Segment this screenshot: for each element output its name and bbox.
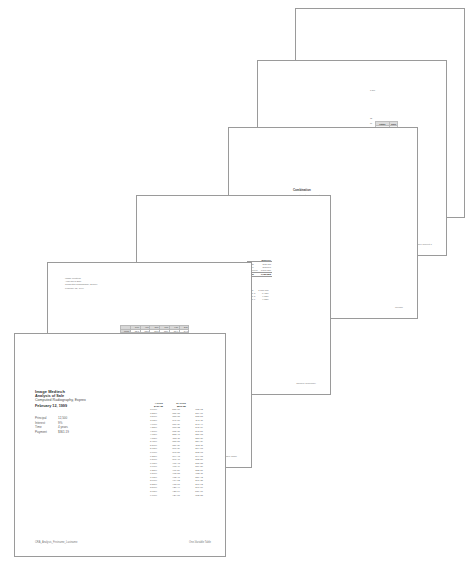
front-parameter-row: Payment$361.19 xyxy=(35,430,80,435)
answer-report-objective-value: 3,109 xyxy=(370,89,375,92)
front-table-rate: 9.00% xyxy=(140,494,157,498)
combination-sheet-tab: Combo xyxy=(395,306,403,309)
front-footer-left: CRA_Analysis_Firstname_Lastname xyxy=(35,541,77,544)
summary-row-value: 1,986,285 xyxy=(259,272,272,276)
front-table-row: 9.00%424.07302.88 xyxy=(140,494,203,498)
front-header-block: Image Medtech Analysis of Sale Computed … xyxy=(35,389,86,408)
front-product: Computed Radiography, Exprex xyxy=(35,398,86,402)
summary-extra-value: 1,000,000 xyxy=(257,288,270,291)
two-variable-header: Image Medtech Analysis of Sale Computed … xyxy=(65,277,98,290)
front-amortization-table: 4 years10 years $461.35$279.80 3.00%587.… xyxy=(140,402,203,497)
combination-title: Combination xyxy=(293,188,325,192)
front-parameter-value: $361.19 xyxy=(58,430,80,435)
front-date: February 12, 1999 xyxy=(35,404,86,408)
front-table-value: 302.88 xyxy=(180,494,203,498)
front-parameters: Principal12,500Interest9%Time4 yearsPaym… xyxy=(35,416,80,435)
page-front-analysis[interactable]: Image Medtech Analysis of Sale Computed … xyxy=(14,333,226,557)
front-footer-right: One-Variable Table xyxy=(189,541,211,544)
front-table-value: 424.07 xyxy=(157,494,180,498)
sample-summary-sheet-tab: Sample Summary xyxy=(296,382,316,385)
summary-extra-value: 4.03% xyxy=(257,298,270,301)
front-parameter-label: Payment xyxy=(35,430,52,435)
document-stack: Microsoft Excel 10.0 Answer Report Works… xyxy=(0,0,469,568)
front-table-rows: 3.00%587.70372.023.25%381.65219.773.50%3… xyxy=(140,408,203,497)
